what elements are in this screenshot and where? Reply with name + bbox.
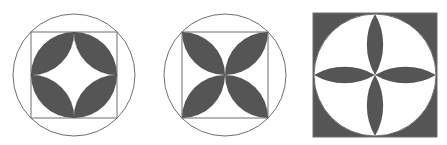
figure-2-petal-bottom-right	[225, 75, 268, 118]
figure-2-petal-top-left	[182, 32, 225, 75]
figure-1	[13, 14, 135, 136]
figure-2	[164, 14, 286, 136]
figure-2-petal-bottom-left	[182, 75, 225, 118]
figure-2-petal-top-right	[225, 32, 268, 75]
figure-3	[313, 13, 437, 137]
geometry-figures	[0, 0, 447, 145]
